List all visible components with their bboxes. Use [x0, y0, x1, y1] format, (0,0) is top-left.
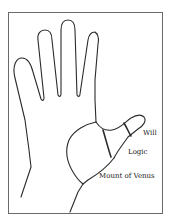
hand-outline-illustration: [0, 0, 170, 223]
label-logic: Logic: [128, 149, 148, 156]
phalange-line-logic: [103, 130, 111, 157]
label-mount-of-venus: Mount of Venus: [99, 173, 155, 180]
hand-outline: [14, 20, 97, 197]
thumb-base-line: [83, 158, 114, 184]
label-will: Will: [143, 130, 157, 137]
mount-of-venus-outline: [67, 122, 96, 184]
index-finger-right-edge: [95, 34, 99, 122]
wrist-right-edge: [70, 184, 83, 212]
phalange-line-will: [124, 123, 131, 136]
